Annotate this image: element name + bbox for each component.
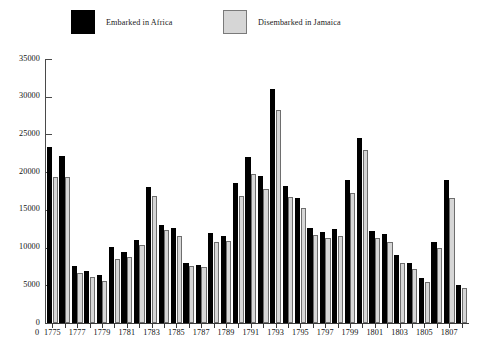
bar-embarked-in-africa-1808 xyxy=(456,285,461,323)
bar-disembarked-in-jamaica-1788 xyxy=(214,242,219,323)
x-axis-tick-label: 1779 xyxy=(91,328,113,337)
y-axis-tick-label: 35000 xyxy=(0,54,40,63)
legend-entry-disembarked: Disembarked in Jamaica xyxy=(223,10,341,34)
x-axis-tick xyxy=(462,324,463,328)
y-axis-tick-label: 20000 xyxy=(0,167,40,176)
bar-disembarked-in-jamaica-1793 xyxy=(276,110,281,323)
x-axis-tick-label: 1775 xyxy=(41,328,63,337)
bar-disembarked-in-jamaica-1800 xyxy=(363,150,368,323)
bar-embarked-in-africa-1787 xyxy=(196,265,201,323)
bar-embarked-in-africa-1790 xyxy=(233,183,238,323)
bar-disembarked-in-jamaica-1803 xyxy=(400,263,405,323)
bar-disembarked-in-jamaica-1806 xyxy=(437,248,442,323)
bar-embarked-in-africa-1776 xyxy=(59,156,64,323)
bar-disembarked-in-jamaica-1795 xyxy=(301,208,306,323)
bar-embarked-in-africa-1781 xyxy=(121,252,126,323)
bar-disembarked-in-jamaica-1799 xyxy=(350,193,355,323)
bar-disembarked-in-jamaica-1791 xyxy=(251,174,256,323)
y-axis-tick-label: 0 xyxy=(0,318,40,327)
bar-embarked-in-africa-1797 xyxy=(320,232,325,323)
bar-disembarked-in-jamaica-1778 xyxy=(90,277,95,323)
y-axis-tick-label: 30000 xyxy=(0,91,40,100)
y-axis-tick-label: 10000 xyxy=(0,242,40,251)
bar-disembarked-in-jamaica-1808 xyxy=(462,288,467,323)
bar-disembarked-in-jamaica-1790 xyxy=(239,196,244,323)
plot-area xyxy=(45,59,469,323)
bar-embarked-in-africa-1788 xyxy=(208,233,213,323)
bar-disembarked-in-jamaica-1797 xyxy=(325,238,330,323)
bar-disembarked-in-jamaica-1802 xyxy=(387,242,392,323)
y-axis-tick-label: 15000 xyxy=(0,204,40,213)
bar-disembarked-in-jamaica-1804 xyxy=(412,269,417,323)
bar-embarked-in-africa-1783 xyxy=(146,187,151,323)
bar-embarked-in-africa-1786 xyxy=(183,263,188,323)
bar-embarked-in-africa-1796 xyxy=(307,228,312,323)
x-axis-tick-label: 1777 xyxy=(66,328,88,337)
bar-embarked-in-africa-1792 xyxy=(258,176,263,323)
bar-disembarked-in-jamaica-1805 xyxy=(425,282,430,323)
bar-disembarked-in-jamaica-1783 xyxy=(152,196,157,323)
x-axis-tick-label: 1801 xyxy=(364,328,386,337)
bar-embarked-in-africa-1801 xyxy=(369,231,374,323)
bar-embarked-in-africa-1775 xyxy=(47,147,52,323)
x-axis-tick-label: 1799 xyxy=(339,328,361,337)
x-axis-tick-label: 1785 xyxy=(165,328,187,337)
bar-embarked-in-africa-1789 xyxy=(221,236,226,323)
bar-disembarked-in-jamaica-1785 xyxy=(177,236,182,323)
bar-disembarked-in-jamaica-1789 xyxy=(226,241,231,323)
x-axis-line xyxy=(45,323,469,324)
bar-disembarked-in-jamaica-1792 xyxy=(263,189,268,323)
bar-embarked-in-africa-1791 xyxy=(245,157,250,323)
bar-embarked-in-africa-1802 xyxy=(382,234,387,323)
bar-disembarked-in-jamaica-1807 xyxy=(449,198,454,323)
bar-embarked-in-africa-1793 xyxy=(270,89,275,323)
bar-disembarked-in-jamaica-1798 xyxy=(338,236,343,323)
bar-disembarked-in-jamaica-1796 xyxy=(313,235,318,323)
bar-embarked-in-africa-1785 xyxy=(171,228,176,323)
bar-embarked-in-africa-1798 xyxy=(332,229,337,323)
x-axis-tick-label: 1787 xyxy=(190,328,212,337)
legend-swatch-disembarked-icon xyxy=(223,10,247,34)
bar-embarked-in-africa-1795 xyxy=(295,198,300,323)
legend-label-disembarked: Disembarked in Jamaica xyxy=(258,18,341,27)
x-axis-tick-label: 1803 xyxy=(389,328,411,337)
bar-disembarked-in-jamaica-1776 xyxy=(65,177,70,323)
bar-disembarked-in-jamaica-1787 xyxy=(201,267,206,323)
bar-embarked-in-africa-1782 xyxy=(134,240,139,323)
x-axis-tick-label: 1795 xyxy=(289,328,311,337)
chart-legend: Embarked in Africa Disembarked in Jamaic… xyxy=(0,0,484,44)
bar-embarked-in-africa-1794 xyxy=(283,186,288,323)
y-axis-tick-label: 5000 xyxy=(0,280,40,289)
bar-embarked-in-africa-1806 xyxy=(431,242,436,323)
bar-disembarked-in-jamaica-1794 xyxy=(288,197,293,323)
legend-swatch-embarked-icon xyxy=(71,10,95,34)
bar-embarked-in-africa-1799 xyxy=(345,180,350,323)
x-axis-origin-label: 0 xyxy=(31,328,43,337)
bar-embarked-in-africa-1779 xyxy=(97,275,102,323)
x-axis-tick-label: 1783 xyxy=(141,328,163,337)
bar-embarked-in-africa-1784 xyxy=(159,225,164,323)
bar-disembarked-in-jamaica-1780 xyxy=(115,259,120,323)
bar-disembarked-in-jamaica-1782 xyxy=(139,245,144,323)
bar-embarked-in-africa-1800 xyxy=(357,138,362,323)
legend-entry-embarked: Embarked in Africa xyxy=(71,10,172,34)
x-axis-tick-label: 1805 xyxy=(413,328,435,337)
bar-embarked-in-africa-1803 xyxy=(394,255,399,323)
bar-disembarked-in-jamaica-1775 xyxy=(53,177,58,323)
x-axis-tick-label: 1789 xyxy=(215,328,237,337)
y-axis-tick xyxy=(45,323,52,324)
y-axis-tick-label: 25000 xyxy=(0,129,40,138)
bar-embarked-in-africa-1807 xyxy=(444,180,449,323)
x-axis-tick-label: 1793 xyxy=(265,328,287,337)
legend-label-embarked: Embarked in Africa xyxy=(106,18,172,27)
bar-disembarked-in-jamaica-1801 xyxy=(375,238,380,323)
x-axis-tick-label: 1807 xyxy=(438,328,460,337)
chart-root: Embarked in Africa Disembarked in Jamaic… xyxy=(0,0,484,348)
bar-disembarked-in-jamaica-1779 xyxy=(102,281,107,323)
bar-disembarked-in-jamaica-1784 xyxy=(164,230,169,323)
bar-embarked-in-africa-1777 xyxy=(72,266,77,323)
bar-embarked-in-africa-1805 xyxy=(419,278,424,323)
bar-embarked-in-africa-1780 xyxy=(109,247,114,323)
bar-disembarked-in-jamaica-1781 xyxy=(127,257,132,323)
bar-disembarked-in-jamaica-1777 xyxy=(77,273,82,323)
